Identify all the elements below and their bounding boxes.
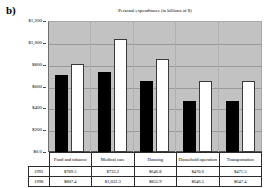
bar-1992: [98, 72, 111, 152]
bar-1998: [114, 39, 127, 152]
bar-group: [134, 21, 177, 152]
bar-group: [176, 21, 219, 152]
table-cell: $807.4: [49, 177, 92, 187]
table-cell: $1,032.3: [92, 177, 135, 187]
bar-group: [91, 21, 134, 152]
table-header-row: Food and tobaccoMedical careHousingHouse…: [29, 153, 262, 167]
bar-1998: [242, 81, 255, 152]
y-axis-tick-mark: [43, 21, 46, 22]
table-column-header: Household operation: [177, 153, 220, 167]
y-axis-tick-label: $800: [32, 62, 42, 68]
table-corner-cell: [29, 153, 50, 167]
y-axis-tick-mark: [43, 87, 46, 88]
y-axis-tick-mark: [43, 108, 46, 109]
table-column-header: Transportation: [219, 153, 262, 167]
y-axis: $1,200$1,000$800$600$400$200$0.0: [0, 21, 46, 152]
table-cell: $709.5: [49, 167, 92, 177]
table-cell: $647.4: [219, 177, 262, 187]
bar-group: [48, 21, 91, 152]
bar-1998: [156, 59, 169, 152]
bar-1992: [226, 101, 239, 152]
bar-1998: [199, 81, 212, 152]
y-axis-tick-mark: [43, 130, 46, 131]
table-row-label: 1998: [29, 177, 50, 187]
bar-1992: [183, 101, 196, 152]
y-axis-tick-label: $600: [32, 84, 42, 90]
table-cell: $855.9: [134, 177, 177, 187]
y-axis-tick-label: $400: [32, 105, 42, 111]
bar-1998: [71, 64, 84, 152]
table-cell: $646.5: [177, 177, 220, 187]
table-cell: $471.5: [219, 167, 262, 177]
table-column-header: Medical care: [92, 153, 135, 167]
table-row: 1992$709.5$733.2$646.8$470.6$471.5: [29, 167, 262, 177]
table-column-header: Housing: [134, 153, 177, 167]
y-axis-tick-label: $200: [32, 127, 42, 133]
chart-figure: b) Personal expenditures (in billions of…: [0, 0, 272, 188]
bar-group: [219, 21, 262, 152]
table-cell: $470.6: [177, 167, 220, 177]
table-column-header: Food and tobacco: [49, 153, 92, 167]
panel-label: b): [6, 4, 16, 16]
chart-title: Personal expenditures (in billions of $): [48, 8, 262, 14]
data-table: Food and tobaccoMedical careHousingHouse…: [28, 152, 262, 187]
y-axis-tick-label: $1,200: [28, 18, 42, 24]
bar-1992: [140, 81, 153, 152]
table-row: 1998$807.4$1,032.3$855.9$646.5$647.4: [29, 177, 262, 187]
data-table-body: Food and tobaccoMedical careHousingHouse…: [29, 153, 262, 187]
table-cell: $646.8: [134, 167, 177, 177]
table-cell: $733.2: [92, 167, 135, 177]
y-axis-tick-label: $1,000: [28, 40, 42, 46]
y-axis-tick-mark: [43, 65, 46, 66]
bars-layer: [48, 21, 262, 152]
table-row-label: 1992: [29, 167, 50, 177]
bar-1992: [55, 75, 68, 152]
y-axis-tick-mark: [43, 43, 46, 44]
